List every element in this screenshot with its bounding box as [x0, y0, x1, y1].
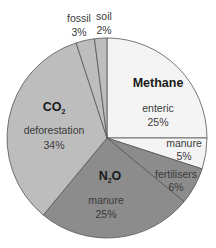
methane-group-label: Methane [133, 76, 184, 90]
deforestation-label: deforestation [24, 124, 85, 136]
enteric-value: 25% [147, 116, 168, 128]
enteric-label: enteric [142, 102, 174, 114]
n2o-manure-value: 25% [95, 208, 116, 220]
soil-label: soil [96, 10, 112, 22]
methane-manure-value: 5% [176, 150, 191, 162]
fossil-label: fossil [67, 12, 91, 24]
fertilisers-value: 6% [168, 181, 183, 193]
fertilisers-label: fertilisers [155, 168, 197, 180]
n2o-manure-label: manure [88, 194, 124, 206]
deforestation-value: 34% [43, 139, 64, 151]
pie-chart: Methane enteric 25% manure 5% N2O fertil… [0, 0, 216, 248]
methane-manure-label: manure [166, 137, 202, 149]
fossil-value: 3% [71, 26, 86, 38]
soil-value: 2% [96, 24, 111, 36]
